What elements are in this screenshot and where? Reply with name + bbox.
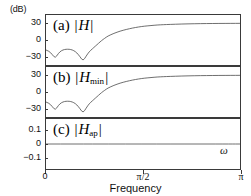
x-axis-title-text: Frequency <box>110 183 162 194</box>
y-tick-mark <box>45 144 48 145</box>
x-tick-label-1: π/2 <box>137 172 150 182</box>
omega-axis-symbol: ω <box>220 145 228 156</box>
y-tick-label: 0 <box>36 35 41 44</box>
panel-a-tag: (a) <box>53 17 70 33</box>
y-axis-unit-label: (dB) <box>10 4 26 14</box>
panel-b-subscript: min <box>90 76 104 86</box>
y-tick-label: −30 <box>26 52 41 61</box>
y-tick-label: −30 <box>26 104 41 113</box>
x-tick-label-0: 0 <box>42 172 47 181</box>
figure-magnitude-responses: (dB) (a) |H| (b) |Hmin| (c) |Hap| 300−30… <box>0 0 251 196</box>
y-tick-mark <box>45 92 48 93</box>
plot-panel-a: (a) |H| <box>45 14 241 66</box>
panel-c-subscript: ap <box>89 128 98 138</box>
panel-c-title: (c) |Hap| <box>53 122 103 137</box>
panel-a-symbol: H <box>78 17 89 33</box>
y-tick-label: 0 <box>36 87 41 96</box>
y-tick-label: 30 <box>31 18 41 27</box>
y-tick-label: 0 <box>36 139 41 148</box>
plot-panel-c: (c) |Hap| <box>45 118 241 170</box>
y-tick-mark <box>45 57 48 58</box>
y-tick-mark <box>45 23 48 24</box>
panel-a-title: (a) |H| <box>53 18 94 33</box>
panel-c-tag: (c) <box>53 121 70 137</box>
y-tick-label: 0.1 <box>28 125 41 134</box>
x-tick-label-2: π <box>238 172 243 182</box>
y-tick-mark <box>45 109 48 110</box>
y-tick-mark <box>45 40 48 41</box>
panel-b-tag: (b) <box>53 69 71 85</box>
plot-panel-b: (b) |Hmin| <box>45 66 241 118</box>
y-tick-label: 30 <box>31 70 41 79</box>
y-tick-mark <box>45 75 48 76</box>
panel-c-symbol: H <box>78 121 89 137</box>
panel-b-title: (b) |Hmin| <box>53 70 109 85</box>
y-tick-mark <box>45 158 48 159</box>
y-tick-label: −0.1 <box>23 153 41 162</box>
panel-b-symbol: H <box>79 69 90 85</box>
x-axis-title: Frequency <box>0 183 251 194</box>
y-tick-mark <box>45 130 48 131</box>
